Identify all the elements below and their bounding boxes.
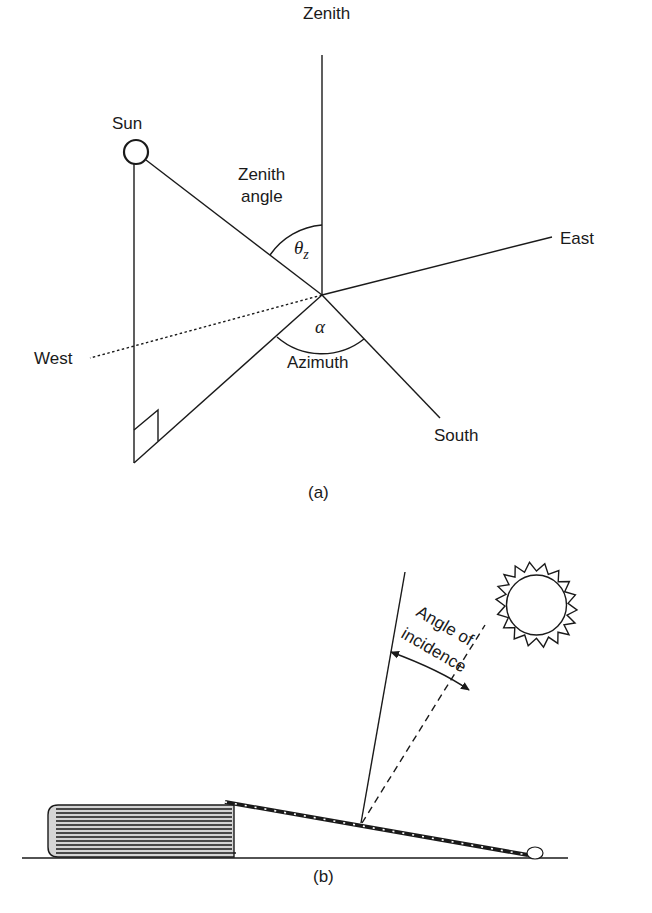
azimuth-arc [277,337,364,354]
figure-a: Zenith East West South Sun Zenith angle … [34,4,594,502]
sun-icon-b [496,562,577,647]
south-label: South [434,426,478,445]
pivot-support [527,847,543,859]
east-axis [322,237,552,295]
zenith-angle-label-line1: Zenith [238,165,285,184]
tilted-collector-panel [225,802,528,855]
zenith-label: Zenith [303,4,350,23]
sun-icon [124,140,148,164]
caption-a: (a) [308,483,329,502]
zenith-angle-label-line2: angle [241,187,283,206]
right-angle-mark [134,410,158,441]
figure-b: Angle of incidence (b) [22,562,577,886]
east-label: East [560,229,594,248]
storage-tank [48,805,236,857]
azimuth-label: Azimuth [287,353,348,372]
sun-ray [146,160,322,295]
caption-b: (b) [313,867,334,886]
sun-label: Sun [112,114,142,133]
west-label: West [34,349,73,368]
zenith-angle-symbol: θz [294,237,309,262]
solar-angles-diagram: Zenith East West South Sun Zenith angle … [0,0,652,913]
surface-normal [361,572,405,823]
azimuth-symbol: α [315,316,326,337]
